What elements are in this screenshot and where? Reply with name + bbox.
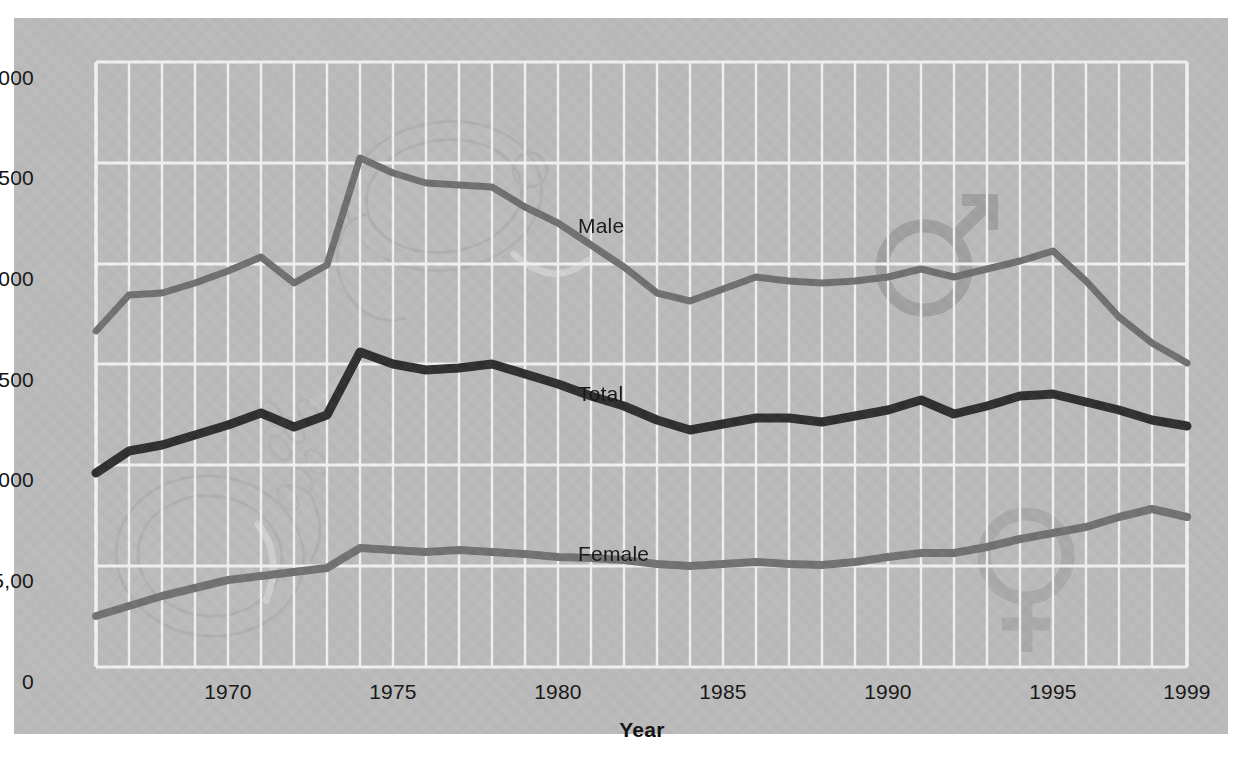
x-tick-1970: 1970	[183, 680, 273, 704]
series-label-total: Total	[578, 382, 623, 406]
chart-figure: 3,000 2,500 2,000 1,500 1,000 5,00 0 197…	[0, 0, 1244, 768]
y-tick-500: 5,00	[0, 569, 34, 593]
series-line-total	[96, 352, 1187, 473]
y-tick-0: 0	[0, 670, 34, 694]
y-tick-2000: 2,000	[0, 267, 34, 291]
x-tick-1980: 1980	[513, 680, 603, 704]
x-tick-1990: 1990	[843, 680, 933, 704]
male-gender-symbol-icon	[882, 194, 998, 310]
series-label-female: Female	[578, 542, 649, 566]
x-tick-1985: 1985	[678, 680, 768, 704]
x-tick-1999: 1999	[1142, 680, 1232, 704]
series-label-male: Male	[578, 214, 624, 238]
chart-panel: 3,000 2,500 2,000 1,500 1,000 5,00 0 197…	[14, 18, 1228, 734]
x-tick-1995: 1995	[1008, 680, 1098, 704]
x-tick-1975: 1975	[348, 680, 438, 704]
plot-area-svg	[14, 18, 1228, 734]
y-tick-3000: 3,000	[0, 66, 34, 90]
y-tick-1500: 1,500	[0, 368, 34, 392]
y-tick-1000: 1,000	[0, 468, 34, 492]
series-line-male	[96, 158, 1187, 363]
x-axis-title: Year	[582, 718, 702, 742]
y-tick-2500: 2,500	[0, 166, 34, 190]
